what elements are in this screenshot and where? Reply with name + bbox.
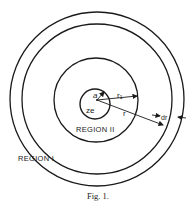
label-r: r (123, 109, 126, 118)
concentric-circles-diagram: a r₁ r ze dr REGION II REGION I Fig. 1. (0, 0, 196, 209)
label-region-ii: REGION II (76, 125, 115, 134)
figure-caption: Fig. 1. (87, 191, 109, 201)
label-region-i: REGION I (18, 154, 54, 163)
dr-right-arrow (178, 117, 186, 118)
label-r1: r₁ (117, 91, 123, 100)
label-a: a (93, 91, 98, 100)
dr-left-arrow (152, 115, 160, 116)
label-ze: ze (86, 106, 95, 115)
radius-a-arrow (97, 92, 104, 100)
label-dr: dr (161, 114, 168, 121)
